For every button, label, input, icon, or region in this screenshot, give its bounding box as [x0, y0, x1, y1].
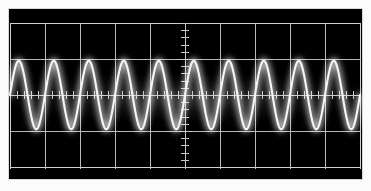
axis-tick-vertical	[179, 167, 192, 168]
axis-tick-horizontal	[157, 91, 158, 99]
axis-tick-horizontal	[332, 91, 333, 99]
axis-tick-horizontal	[290, 89, 291, 102]
axis-tick-vertical	[181, 66, 189, 67]
axis-tick-vertical	[181, 124, 189, 125]
axis-tick-vertical	[181, 102, 189, 103]
axis-tick-horizontal	[220, 89, 221, 102]
axis-tick-horizontal	[276, 91, 277, 99]
axis-tick-horizontal	[325, 89, 326, 102]
axis-tick-horizontal	[269, 91, 270, 99]
axis-tick-horizontal	[171, 91, 172, 99]
axis-tick-vertical	[181, 45, 189, 46]
axis-tick-horizontal	[227, 91, 228, 99]
axis-tick-horizontal	[304, 91, 305, 99]
axis-tick-horizontal	[38, 91, 39, 99]
axis-tick-horizontal	[101, 91, 102, 99]
axis-tick-horizontal	[311, 91, 312, 99]
axis-tick-vertical	[181, 73, 189, 74]
axis-tick-horizontal	[31, 91, 32, 99]
photo-border-top	[0, 0, 371, 8]
axis-tick-horizontal	[262, 91, 263, 99]
axis-tick-horizontal	[353, 91, 354, 99]
axis-tick-horizontal	[150, 89, 151, 102]
oscilloscope-screenshot	[0, 0, 371, 191]
axis-tick-horizontal	[87, 91, 88, 99]
axis-tick-horizontal	[73, 91, 74, 99]
axis-tick-horizontal	[122, 91, 123, 99]
axis-tick-horizontal	[318, 91, 319, 99]
axis-tick-vertical	[181, 160, 189, 161]
axis-tick-horizontal	[255, 89, 256, 102]
photo-border-bottom	[0, 180, 371, 191]
axis-tick-vertical	[181, 81, 189, 82]
axis-tick-horizontal	[192, 91, 193, 99]
axis-tick-vertical	[181, 145, 189, 146]
axis-tick-horizontal	[199, 91, 200, 99]
photo-border-left	[0, 0, 8, 191]
axis-tick-horizontal	[94, 91, 95, 99]
axis-tick-horizontal	[115, 89, 116, 102]
axis-tick-horizontal	[45, 89, 46, 102]
axis-tick-vertical	[179, 23, 192, 24]
axis-tick-horizontal	[213, 91, 214, 99]
axis-tick-horizontal	[108, 91, 109, 99]
axis-tick-horizontal	[178, 91, 179, 99]
axis-tick-vertical	[179, 131, 192, 132]
graticule	[10, 23, 361, 169]
axis-tick-horizontal	[17, 91, 18, 99]
axis-tick-horizontal	[143, 91, 144, 99]
axis-tick-horizontal	[283, 91, 284, 99]
axis-tick-horizontal	[248, 91, 249, 99]
axis-tick-horizontal	[241, 91, 242, 99]
axis-tick-horizontal	[80, 89, 81, 102]
axis-tick-horizontal	[206, 91, 207, 99]
axis-tick-horizontal	[59, 91, 60, 99]
axis-tick-horizontal	[52, 91, 53, 99]
axis-tick-horizontal	[129, 91, 130, 99]
axis-tick-vertical	[181, 30, 189, 31]
axis-tick-vertical	[181, 52, 189, 53]
axis-tick-horizontal	[339, 91, 340, 99]
axis-tick-vertical	[181, 138, 189, 139]
axis-tick-horizontal	[346, 91, 347, 99]
axis-tick-vertical	[181, 117, 189, 118]
axis-tick-horizontal	[234, 91, 235, 99]
crt-bezel	[8, 8, 363, 180]
photo-border-right	[363, 0, 371, 191]
axis-tick-horizontal	[66, 91, 67, 99]
axis-tick-horizontal	[10, 89, 11, 102]
axis-tick-horizontal	[360, 89, 361, 102]
crt-face	[9, 9, 362, 179]
axis-tick-vertical	[179, 59, 192, 60]
axis-tick-vertical	[181, 37, 189, 38]
axis-tick-horizontal	[164, 91, 165, 99]
axis-tick-horizontal	[136, 91, 137, 99]
axis-tick-vertical	[181, 109, 189, 110]
axis-tick-horizontal	[24, 91, 25, 99]
axis-tick-horizontal	[185, 89, 186, 102]
axis-tick-vertical	[181, 153, 189, 154]
axis-tick-horizontal	[297, 91, 298, 99]
